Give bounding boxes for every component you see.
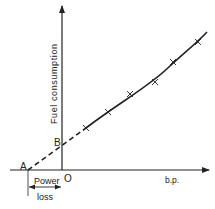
loss-label: loss	[37, 192, 54, 202]
point-b-label: B	[54, 137, 61, 148]
power-label: Power	[34, 176, 60, 186]
willans-line-diagram: A B O b.p. Power loss Fuel consumption	[0, 0, 215, 209]
origin-label: O	[64, 173, 72, 184]
y-axis-label: Fuel consumption	[49, 43, 59, 124]
extrapolation-dashed-line	[28, 128, 86, 170]
point-a-label: A	[20, 161, 27, 172]
fuel-consumption-curve	[86, 32, 207, 128]
cross-marker	[152, 79, 158, 85]
x-axis-label: b.p.	[165, 175, 179, 185]
cross-marker	[83, 125, 89, 131]
cross-marker	[105, 109, 111, 115]
